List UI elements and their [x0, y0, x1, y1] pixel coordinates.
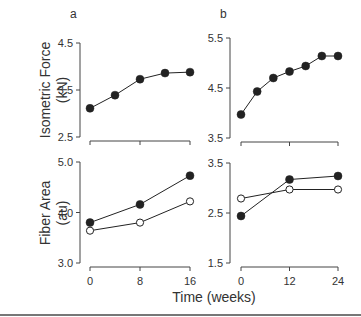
series-line-filled — [241, 56, 338, 115]
y-tick-label: 3.5 — [208, 157, 223, 169]
y-axis-title-fiber-area: Fiber Area (au) — [37, 180, 70, 245]
panel-b-top: b3.54.55.5 — [208, 7, 342, 146]
x-tick-label: 16 — [184, 275, 196, 287]
y-tick-label: 3.5 — [208, 132, 223, 144]
x-axis-title: Time (weeks) — [172, 289, 256, 305]
open-data-point — [136, 219, 143, 226]
panel-a-top: a2.53.54.5 — [58, 7, 194, 145]
y-axis-title-force: Isometric Force (kN) — [37, 42, 70, 139]
filled-data-point — [237, 111, 245, 119]
open-data-point — [334, 186, 341, 193]
x-tick-label: 12 — [283, 275, 295, 287]
y-tick-label: 3.0 — [58, 257, 73, 269]
open-data-point — [186, 198, 193, 205]
svg-text:(au): (au) — [54, 201, 70, 226]
y-tick-label: 4.5 — [208, 82, 223, 94]
panel-a-bottom: 3.04.05.00816 — [58, 156, 196, 287]
y-tick-label: 5.5 — [208, 32, 223, 44]
filled-data-point — [286, 68, 294, 76]
series-line-filled — [90, 176, 190, 223]
filled-data-point — [86, 219, 94, 227]
open-data-point — [86, 227, 93, 234]
panel-b-bottom: 1.52.53.501224 — [208, 157, 344, 287]
x-tick-label: 8 — [137, 275, 143, 287]
filled-data-point — [334, 172, 342, 180]
filled-data-point — [286, 176, 294, 184]
filled-data-point — [186, 68, 194, 76]
filled-data-point — [111, 91, 119, 99]
y-tick-label: 5.0 — [58, 156, 73, 168]
filled-data-point — [269, 74, 277, 82]
x-tick-label: 0 — [238, 275, 244, 287]
filled-data-point — [186, 172, 194, 180]
svg-text:(kN): (kN) — [54, 77, 70, 103]
filled-data-point — [86, 104, 94, 112]
open-data-point — [286, 186, 293, 193]
figure-canvas: a2.53.54.5b3.54.55.53.04.05.008161.52.53… — [0, 0, 361, 317]
svg-text:Isometric Force: Isometric Force — [37, 42, 53, 139]
filled-data-point — [318, 52, 326, 60]
y-tick-label: 2.5 — [208, 207, 223, 219]
filled-data-point — [136, 200, 144, 208]
filled-data-point — [302, 62, 310, 70]
y-tick-label: 2.5 — [58, 131, 73, 143]
filled-data-point — [253, 88, 261, 96]
panel-label: b — [220, 7, 227, 21]
filled-data-point — [136, 75, 144, 83]
y-tick-label: 4.5 — [58, 37, 73, 49]
x-tick-label: 24 — [332, 275, 344, 287]
y-tick-label: 1.5 — [208, 257, 223, 269]
filled-data-point — [334, 52, 342, 60]
filled-data-point — [161, 69, 169, 77]
x-tick-label: 0 — [87, 275, 93, 287]
bottom-divider — [0, 314, 361, 316]
panel-label: a — [70, 7, 77, 21]
svg-text:Fiber Area: Fiber Area — [37, 180, 53, 245]
open-data-point — [237, 195, 244, 202]
filled-data-point — [237, 212, 245, 220]
